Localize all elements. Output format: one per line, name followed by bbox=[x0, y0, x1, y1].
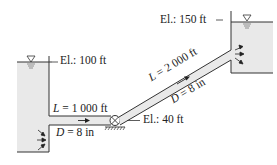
right-elevation-label: El.: 150 ft bbox=[160, 13, 206, 25]
pipe-1-diameter-label: D = 8 in bbox=[56, 126, 94, 138]
diagram-graphics bbox=[0, 0, 277, 165]
water-level-icon bbox=[243, 15, 251, 21]
pipe-system-diagram: El.: 100 ft El.: 150 ft L = 1 000 ft D =… bbox=[0, 0, 277, 165]
left-reservoir-water bbox=[17, 62, 49, 152]
pump-elevation-label: El.: 40 ft bbox=[143, 113, 184, 125]
pipe-1-length-label: L = 1 000 ft bbox=[53, 102, 107, 114]
left-elevation-label: El.: 100 ft bbox=[60, 54, 106, 66]
water-level-icon bbox=[27, 56, 35, 62]
right-reservoir-water bbox=[231, 22, 273, 73]
